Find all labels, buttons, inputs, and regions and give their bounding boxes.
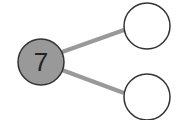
part-circle-top[interactable] bbox=[124, 3, 170, 49]
connector-bottom bbox=[62, 70, 124, 93]
whole-value: 7 bbox=[34, 47, 48, 77]
connector-top bbox=[62, 30, 124, 52]
part-circle-bottom[interactable] bbox=[124, 74, 170, 120]
number-bond-diagram: 7 bbox=[0, 0, 178, 120]
